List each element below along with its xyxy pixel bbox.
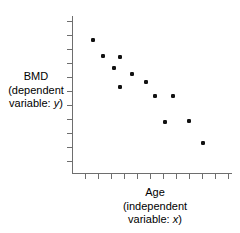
data-point: [201, 141, 205, 145]
data-point: [118, 85, 122, 89]
x-axis-label-line-2: (independent: [95, 200, 215, 214]
data-point: [130, 72, 134, 76]
y-axis-label-line-3: variable: y): [2, 97, 70, 111]
data-point: [118, 55, 122, 59]
data-point: [101, 54, 105, 58]
x-axis-label-line-3-suffix: ): [178, 213, 182, 225]
data-point: [112, 66, 116, 70]
scatter-plot-figure: BMD (dependent variable: y) Age (indepen…: [0, 0, 240, 233]
y-axis-label-line-1: BMD: [2, 70, 70, 84]
x-axis-label-line-1: Age: [95, 186, 215, 200]
x-axis-label-line-3: variable: x): [95, 213, 215, 227]
data-point: [171, 94, 175, 98]
x-axis-label-line-3-prefix: variable:: [128, 213, 173, 225]
y-axis-label: BMD (dependent variable: y): [2, 70, 70, 111]
data-point: [153, 94, 157, 98]
y-axis-label-line-2: (dependent: [2, 84, 70, 98]
x-axis-ticks: [86, 174, 229, 179]
data-point-series: [91, 38, 205, 145]
data-point: [187, 119, 191, 123]
data-point: [91, 38, 95, 42]
data-point: [163, 120, 167, 124]
y-axis-label-line-3-prefix: variable:: [9, 97, 54, 109]
y-axis-label-line-3-suffix: ): [59, 97, 63, 109]
x-axis-label: Age (independent variable: x): [95, 186, 215, 227]
data-point: [144, 80, 148, 84]
